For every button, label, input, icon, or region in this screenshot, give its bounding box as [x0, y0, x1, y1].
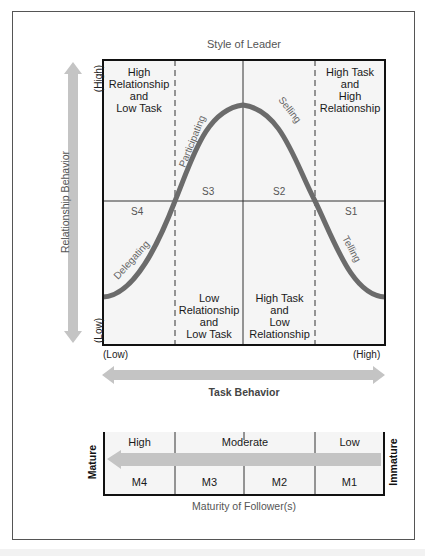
quadrant-bottom-right: High Task and Low Relationship — [244, 292, 315, 340]
quadrant-line: and — [104, 90, 174, 102]
quadrant-line: Relationship — [104, 78, 174, 90]
y-axis-low: (Low) — [93, 311, 104, 351]
style-code-s2: S2 — [273, 186, 285, 197]
x-axis-label: Task Behavior — [103, 386, 385, 398]
task-arrow-icon — [102, 366, 385, 384]
quadrant-line: Low — [244, 316, 315, 328]
quadrant-line: High — [316, 90, 384, 102]
maturity-level-moderate: Moderate — [175, 436, 315, 448]
maturity-level-high: High — [104, 436, 175, 448]
quadrant-line: Relationship — [244, 328, 315, 340]
maturity-immature-label: Immature — [387, 432, 399, 492]
quadrant-line: and — [244, 304, 315, 316]
maturity-code-m4: M4 — [104, 476, 175, 488]
quadrant-bottom-left: Low Relationship and Low Task — [175, 292, 243, 340]
quadrant-line: Low — [175, 292, 243, 304]
maturity-title: Maturity of Follower(s) — [103, 500, 385, 512]
x-axis-low: (Low) — [103, 349, 128, 360]
maturity-code-m2: M2 — [244, 476, 315, 488]
quadrant-line: High Task — [316, 66, 384, 78]
quadrant-line: Low Task — [104, 102, 174, 114]
quadrant-line: and — [316, 78, 384, 90]
quadrant-top-left: High Relationship and Low Task — [104, 66, 174, 114]
y-axis-high: (High) — [93, 59, 104, 99]
style-code-s4: S4 — [131, 206, 143, 217]
quadrant-top-right: High Task and High Relationship — [316, 66, 384, 114]
bottom-band — [0, 549, 425, 556]
quadrant-line: High Task — [244, 292, 315, 304]
maturity-code-m1: M1 — [315, 476, 384, 488]
style-code-s1: S1 — [345, 206, 357, 217]
x-axis-high: (High) — [353, 349, 380, 360]
quadrant-line: High — [104, 66, 174, 78]
maturity-level-low: Low — [315, 436, 384, 448]
quadrant-line: Relationship — [175, 304, 243, 316]
quadrant-line: and — [175, 316, 243, 328]
maturity-code-m3: M3 — [175, 476, 244, 488]
quadrant-line: Low Task — [175, 328, 243, 340]
y-axis-label: Relationship Behavior — [59, 127, 71, 277]
style-code-s3: S3 — [202, 186, 214, 197]
maturity-mature-label: Mature — [86, 432, 98, 492]
quadrant-line: Relationship — [316, 102, 384, 114]
